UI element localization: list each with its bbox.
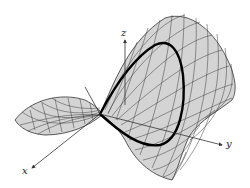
y-axis-label: y [225, 138, 232, 149]
surface-main-sheet [100, 14, 235, 180]
z-axis-label: z [120, 27, 127, 38]
saddle-surface-figure: x y z [0, 0, 250, 188]
x-axis-label: x [22, 165, 28, 176]
surface-left-lobe [15, 97, 102, 135]
